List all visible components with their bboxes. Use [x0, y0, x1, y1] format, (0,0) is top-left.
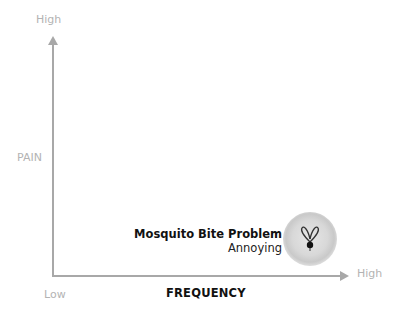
y-axis-high-label: High [36, 13, 61, 26]
x-axis-title: FREQUENCY [166, 286, 246, 300]
mosquito-icon [283, 212, 337, 266]
x-axis-high-label: High [357, 267, 382, 280]
y-axis-arrow-icon [48, 36, 58, 45]
y-axis-line [52, 44, 54, 276]
data-point-bubble [283, 212, 337, 266]
x-axis-arrow-icon [340, 271, 349, 281]
x-axis-line [52, 275, 341, 277]
x-axis-low-label: Low [44, 288, 66, 301]
data-point-subtitle: Annoying [228, 241, 282, 255]
data-point-title: Mosquito Bite Problem [134, 227, 282, 241]
y-axis-title: PAIN [17, 151, 42, 164]
